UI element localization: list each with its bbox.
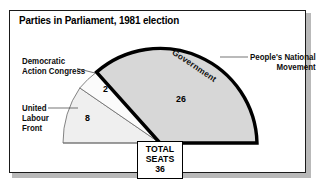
total-seats-label-line2: SEATS [139, 154, 181, 164]
label-united-labour-front: United Labour Front [22, 103, 49, 134]
total-seats-label-line1: TOTAL [139, 144, 181, 154]
label-democratic-action-congress: Democratic Action Congress [22, 56, 85, 76]
total-seats-value: 36 [139, 164, 181, 174]
label-peoples-national-movement: People's National Movement [250, 52, 316, 72]
dac-label-line1: Democratic [22, 56, 65, 66]
total-seats-box: TOTAL SEATS 36 [137, 141, 183, 179]
seat-value-ulf: 8 [85, 113, 90, 123]
ulf-label-line1: United [22, 103, 47, 113]
ulf-label-line2: Labour [22, 113, 49, 123]
pnm-label-line1: People's National [250, 52, 316, 62]
figure-root: Parties in Parliament, 1981 election Dem… [0, 0, 319, 190]
dac-label-line2: Action Congress [22, 66, 85, 76]
pnm-label-line2: Movement [250, 62, 316, 72]
ulf-label-line3: Front [22, 123, 42, 133]
seat-value-pnm: 26 [176, 94, 186, 104]
seat-value-dac: 2 [103, 84, 108, 94]
